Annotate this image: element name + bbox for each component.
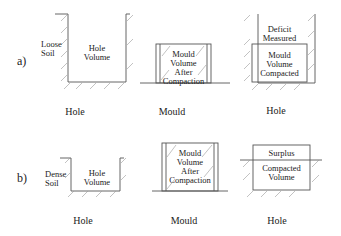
mould-label-line: Compaction	[166, 176, 214, 185]
row-b-hole-volume-label: Hole Volume	[80, 169, 114, 187]
row-b-mould-label: Mould Volume After Compaction	[166, 149, 214, 185]
row-b-label: b)	[17, 171, 27, 186]
row-b-surplus-label: Surplus	[253, 149, 310, 158]
row-b-caption-hole: Hole	[68, 215, 98, 226]
row-a-hole-volume-label: Hole Volume	[82, 44, 112, 62]
row-a-mould-label: Mould Volume After Compaction	[160, 50, 207, 86]
row-a-label: a)	[17, 54, 26, 69]
row-a-soil-label: Loose Soil	[41, 40, 62, 58]
soil-label-line: Soil	[41, 49, 62, 58]
compacted-label-line: Volume	[253, 173, 310, 182]
hole-label-line: Volume	[82, 53, 112, 62]
row-b-soil-label: Dense Soil	[45, 170, 66, 188]
row-b-caption-mould: Mould	[164, 215, 204, 226]
row-a-caption-mould: Mould	[152, 106, 192, 117]
deficit-label-line: Measured	[252, 34, 307, 43]
row-b-compacted-label: Compacted Volume	[253, 164, 310, 182]
row-a-caption-hole: Hole	[60, 106, 90, 117]
surplus-label-line: Surplus	[253, 149, 310, 158]
row-a-caption-hole-2: Hole	[261, 105, 291, 116]
compacted-label-line: Compacted	[252, 69, 307, 78]
row-b-caption-hole-2: Hole	[262, 215, 292, 226]
row-a-deficit-label: Deficit Measured	[252, 25, 307, 43]
soil-label-line: Soil	[45, 179, 66, 188]
mould-label-line: Compaction	[160, 77, 207, 86]
hole-label-line: Volume	[80, 178, 114, 187]
row-a-compacted-label: Mould Volume Compacted	[252, 51, 307, 78]
